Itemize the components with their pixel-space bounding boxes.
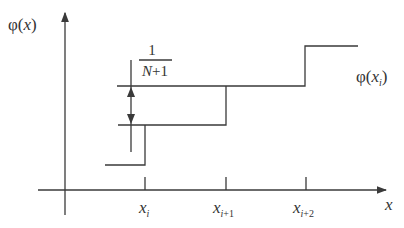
fraction-denominator: N+1 (141, 63, 168, 79)
step-1 (105, 125, 145, 165)
tick-label-xi: xi (138, 198, 150, 219)
x-axis-label: x (384, 195, 393, 214)
arrow-up-icon (127, 87, 135, 97)
y-axis-label: φ(x) (8, 15, 37, 34)
tick-label-xi2: xi+2 (292, 198, 314, 219)
curve-label: φ(xi) (356, 67, 387, 88)
fraction-numerator: 1 (148, 42, 156, 58)
step-function-diagram: 1 N+1 φ(x) φ(xi) x xi xi+1 xi+2 (0, 0, 404, 228)
step-2 (118, 86, 226, 125)
tick-label-xi1: xi+1 (212, 198, 234, 219)
arrow-down-icon (127, 114, 135, 124)
